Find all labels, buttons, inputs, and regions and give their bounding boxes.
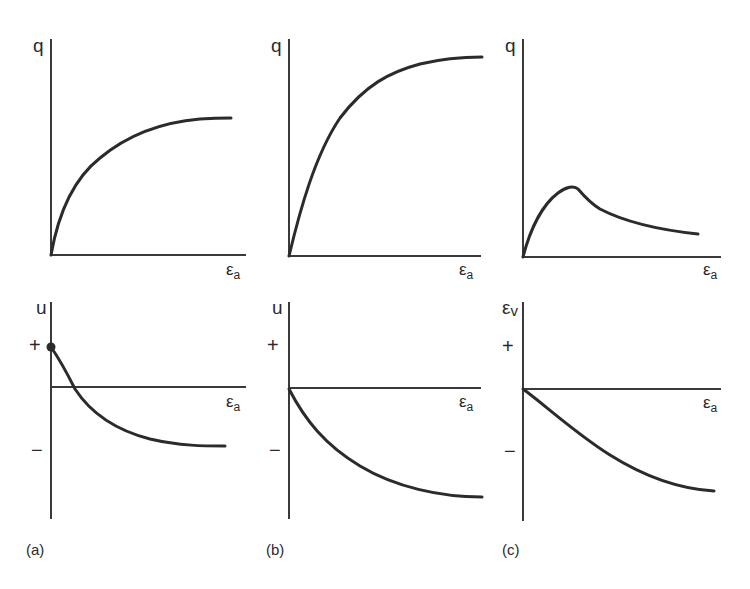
minus-tick-label: − xyxy=(504,440,516,462)
x-axis-label: εa xyxy=(226,260,241,282)
y-axis-label: u xyxy=(272,297,283,318)
initial-pore-pressure-marker xyxy=(47,343,56,352)
minus-tick-label: − xyxy=(269,439,281,461)
y-axis-label: q xyxy=(33,35,44,56)
panel-label-a: (a) xyxy=(26,541,44,558)
x-axis-label: εa xyxy=(226,392,241,414)
x-axis-label: εa xyxy=(459,392,474,414)
y-axis-label: q xyxy=(505,35,516,56)
minus-tick-label: − xyxy=(31,439,43,461)
panel-a-top-q-plot: q εa xyxy=(33,35,245,282)
y-axis-label: εv xyxy=(502,297,518,319)
x-axis-label: εa xyxy=(459,260,474,282)
q-curve-peak-softening xyxy=(523,187,698,257)
pore-pressure-curve xyxy=(289,389,482,497)
panel-c-top-q-plot: q εa xyxy=(505,35,720,282)
panel-b-top-q-plot: q εa xyxy=(271,35,482,282)
q-curve-high-plateau xyxy=(289,57,482,256)
x-axis-label: εa xyxy=(703,260,718,282)
plus-tick-label: + xyxy=(29,334,41,356)
soil-behaviour-figure: q εa q εa q εa u + − εa (a) u + − εa xyxy=(0,0,750,589)
panel-c-bottom-volumetric-strain-plot: εv + − εa (c) xyxy=(502,297,720,558)
panel-label-c: (c) xyxy=(502,541,520,558)
x-axis-label: εa xyxy=(703,393,718,415)
plus-tick-label: + xyxy=(502,335,514,357)
y-axis-label: u xyxy=(36,297,47,318)
panel-label-b: (b) xyxy=(266,541,284,558)
y-axis-label: q xyxy=(271,35,282,56)
panel-a-bottom-u-plot: u + − εa (a) xyxy=(26,297,245,558)
panel-b-bottom-u-plot: u + − εa (b) xyxy=(266,297,482,558)
pore-pressure-curve xyxy=(51,347,225,446)
q-curve-hardening xyxy=(51,118,231,255)
plus-tick-label: + xyxy=(267,334,279,356)
volumetric-strain-curve xyxy=(523,389,714,491)
